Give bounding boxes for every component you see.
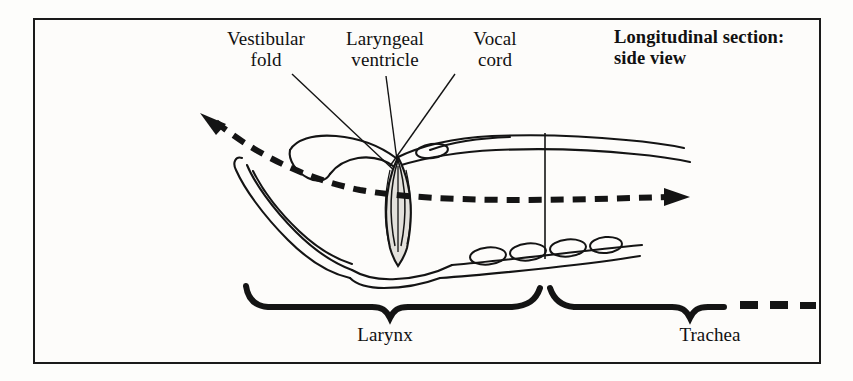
label-larynx: Larynx: [325, 324, 445, 345]
label-vestibular-fold: Vestibular fold: [206, 28, 326, 71]
figure-title: Longitudinal section: side view: [614, 27, 824, 68]
label-trachea: Trachea: [650, 324, 770, 345]
label-laryngeal-ventricle: Laryngeal ventricle: [329, 28, 441, 71]
label-vocal-cord: Vocal cord: [452, 28, 538, 71]
figure-page: Vestibular fold Laryngeal ventricle Voca…: [0, 0, 853, 381]
